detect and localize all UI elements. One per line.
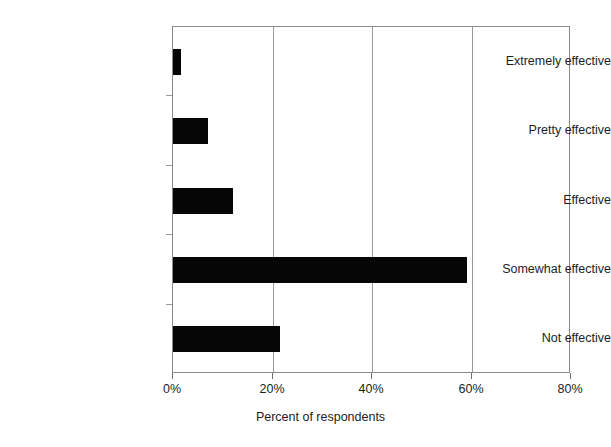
y-axis-label-somewhat-effective: Somewhat effective: [445, 262, 611, 276]
x-axis-tick-label-40%: 40%: [358, 382, 383, 396]
bar-not-effective: [173, 326, 280, 352]
bar-somewhat-effective: [173, 257, 467, 283]
y-axis-minor-tick: [166, 95, 172, 96]
y-axis-label-not-effective: Not effective: [445, 331, 611, 345]
gridline-40%: [372, 27, 373, 372]
bar-pretty-effective: [173, 118, 208, 144]
x-axis-tick-0%: [172, 373, 173, 379]
x-axis-tick-label-0%: 0%: [163, 382, 181, 396]
x-axis-tick-label-20%: 20%: [259, 382, 284, 396]
bar-extremely-effective: [173, 49, 181, 75]
x-axis-tick-label-80%: 80%: [557, 382, 582, 396]
x-axis-title: Percent of respondents: [0, 410, 611, 424]
x-axis-tick-60%: [471, 373, 472, 379]
y-axis-label-pretty-effective: Pretty effective: [445, 123, 611, 137]
x-axis-tick-20%: [272, 373, 273, 379]
y-axis-minor-tick: [166, 165, 172, 166]
y-axis-minor-tick: [166, 304, 172, 305]
y-axis-label-extremely-effective: Extremely effective: [445, 54, 611, 68]
y-axis-minor-tick: [166, 234, 172, 235]
bar-effective: [173, 188, 233, 214]
y-axis-label-effective: Effective: [445, 193, 611, 207]
x-axis-tick-label-60%: 60%: [458, 382, 483, 396]
x-axis-title-text: Percent of respondents: [256, 410, 385, 424]
x-axis-tick-40%: [371, 373, 372, 379]
x-axis-tick-80%: [570, 373, 571, 379]
bar-chart: Extremely effectivePretty effectiveEffec…: [0, 0, 611, 447]
gridline-20%: [273, 27, 274, 372]
